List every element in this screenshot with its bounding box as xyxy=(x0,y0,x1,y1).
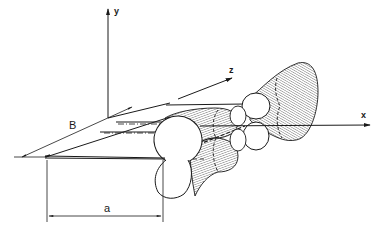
z-axis xyxy=(178,78,232,99)
near-lobe-pair xyxy=(149,108,238,198)
y-axis-label: y xyxy=(114,7,119,16)
baseline xyxy=(14,155,165,159)
near-lower-lobe-mouth xyxy=(155,160,191,198)
dimension-a-label: a xyxy=(104,203,110,214)
z-axis-label: z xyxy=(229,66,234,75)
far-lobe-pair xyxy=(230,63,318,151)
x-axis-label: x xyxy=(361,111,366,120)
diagram-canvas: y z x B a xyxy=(0,0,380,231)
diagram-svg xyxy=(0,0,380,231)
dimension-B-label: B xyxy=(69,120,76,131)
